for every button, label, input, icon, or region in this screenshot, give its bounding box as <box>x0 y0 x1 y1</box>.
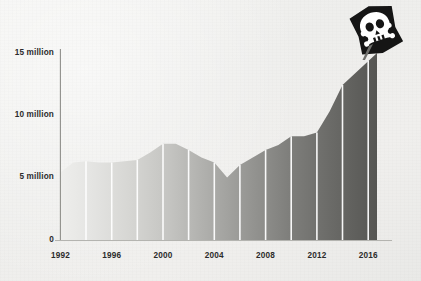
area-path <box>60 53 377 240</box>
x-tick-2000: 2000 <box>153 251 172 260</box>
x-tick-2004: 2004 <box>205 251 224 260</box>
x-tick-2008: 2008 <box>256 251 275 260</box>
x-tick-2016: 2016 <box>359 251 378 260</box>
area-series <box>60 53 377 240</box>
skull-and-crossbones-flag-icon <box>345 2 407 60</box>
x-tick-1996: 1996 <box>102 251 121 260</box>
chart-container: 15 million 10 million 5 million 0 <box>0 0 421 281</box>
x-tick-2012: 2012 <box>307 251 326 260</box>
x-tick-1992: 1992 <box>51 251 70 260</box>
pirate-flag-annotation <box>345 2 407 60</box>
